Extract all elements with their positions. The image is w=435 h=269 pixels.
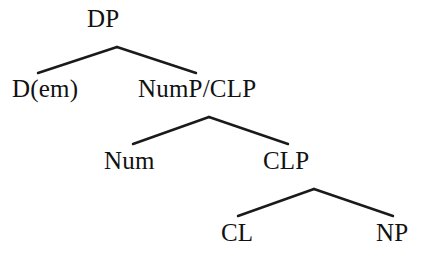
branch-numpclp-left bbox=[133, 117, 209, 144]
branch-dp-left bbox=[38, 47, 117, 73]
tree-node-clp: CLP bbox=[263, 148, 309, 173]
tree-node-np: NP bbox=[376, 220, 408, 245]
tree-node-nump-clp: NumP/CLP bbox=[138, 76, 256, 101]
tree-node-cl: CL bbox=[221, 220, 253, 245]
branch-clp-right bbox=[314, 189, 393, 216]
tree-node-num: Num bbox=[104, 148, 155, 173]
branch-numpclp-right bbox=[209, 117, 288, 144]
branch-dp-right bbox=[117, 47, 196, 73]
tree-branch-lines bbox=[0, 0, 435, 269]
syntax-tree-diagram: DP D(em) NumP/CLP Num CLP CL NP bbox=[0, 0, 435, 269]
tree-node-dp: DP bbox=[87, 6, 119, 31]
tree-node-dem: D(em) bbox=[12, 76, 78, 101]
branch-clp-left bbox=[238, 189, 314, 216]
